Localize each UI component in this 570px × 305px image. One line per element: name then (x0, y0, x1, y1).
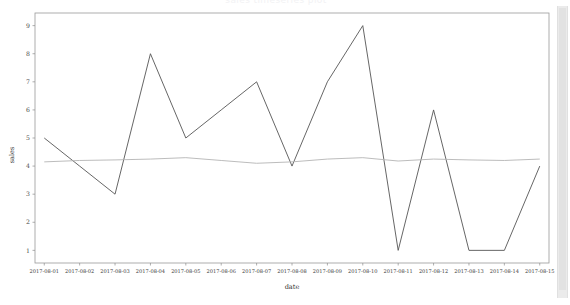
scrollbar-thumb[interactable] (559, 8, 566, 290)
y-tick-label: 1 (26, 247, 30, 254)
x-tick-label: 2017-08-13 (454, 268, 483, 274)
plot-area-frame (35, 13, 549, 263)
x-tick-label: 2017-08-14 (490, 268, 519, 274)
y-tick-label: 4 (26, 162, 30, 169)
x-tick-label: 2017-08-06 (207, 268, 236, 274)
x-tick-label: 2017-08-07 (242, 268, 271, 274)
y-tick-label: 3 (26, 190, 30, 197)
y-tick-label: 5 (26, 134, 30, 141)
x-tick-label: 2017-08-04 (136, 268, 165, 274)
x-tick-label: 2017-08-08 (277, 268, 306, 274)
y-tick-label: 6 (26, 106, 30, 113)
y-axis-title: sales (8, 146, 16, 163)
x-tick-label: 2017-08-10 (348, 268, 377, 274)
chart-figure: sales timeseries plot 123456789 2017-08-… (0, 0, 570, 305)
x-tick-label: 2017-08-15 (525, 268, 554, 274)
x-tick-label: 2017-08-02 (65, 268, 94, 274)
y-tick-label: 9 (26, 22, 30, 29)
vertical-scrollbar[interactable] (557, 6, 568, 298)
x-tick-label: 2017-08-09 (313, 268, 342, 274)
x-tick-label: 2017-08-01 (30, 268, 59, 274)
x-tick-label: 2017-08-11 (383, 268, 412, 274)
x-axis-title: date (285, 283, 300, 291)
y-axis-ticks: 123456789 (26, 22, 35, 254)
x-tick-label: 2017-08-05 (171, 268, 200, 274)
y-tick-label: 2 (26, 218, 30, 225)
x-tick-label: 2017-08-12 (419, 268, 448, 274)
y-tick-label: 7 (26, 78, 30, 85)
x-tick-label: 2017-08-03 (100, 268, 129, 274)
line-chart: 123456789 2017-08-012017-08-022017-08-03… (0, 0, 570, 305)
y-tick-label: 8 (26, 50, 30, 57)
x-axis-ticks: 2017-08-012017-08-022017-08-032017-08-04… (30, 263, 555, 274)
